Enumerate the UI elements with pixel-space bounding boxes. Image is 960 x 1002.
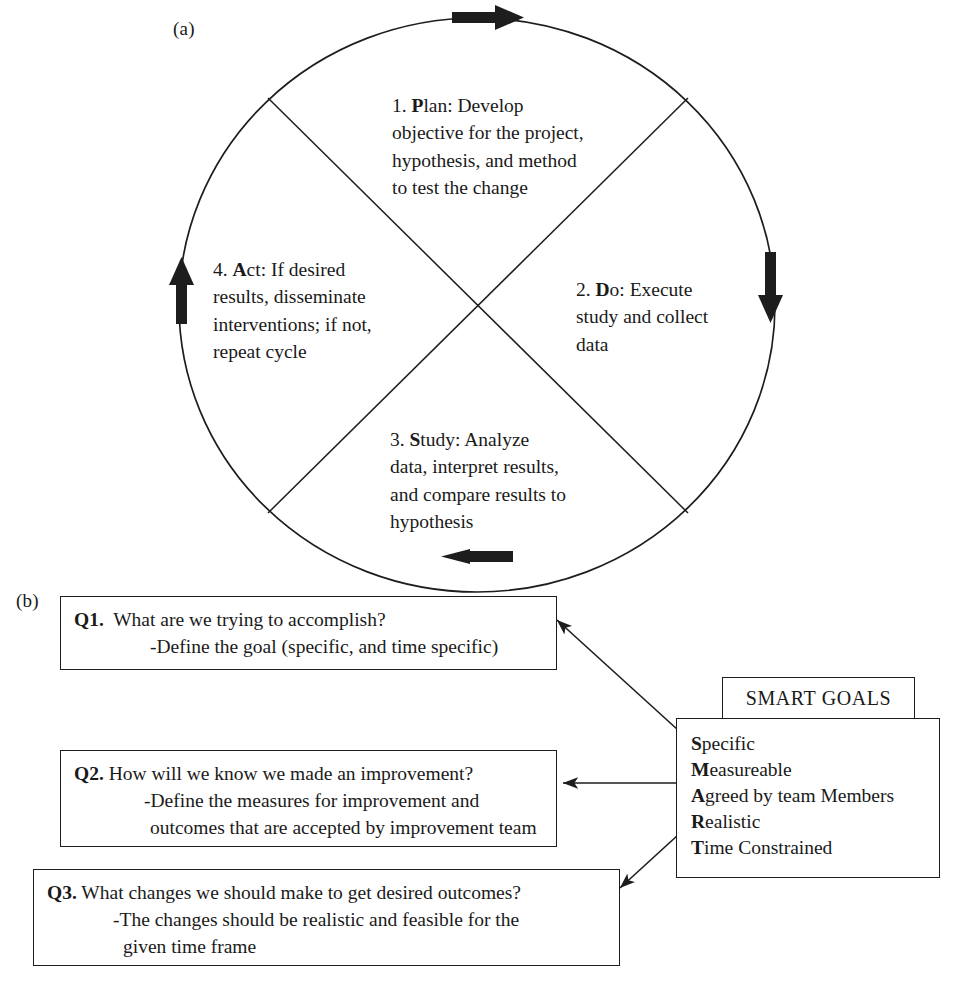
q1-text-line1: What are we trying to accomplish? bbox=[113, 609, 385, 630]
smart-item-specific: Specific bbox=[691, 731, 939, 757]
pdsa-quadrant-study: 3. Study: Analyze data, interpret result… bbox=[390, 398, 630, 536]
smart-goals-list: Specific Measureable Agreed by team Memb… bbox=[676, 718, 940, 878]
q2-text-line1: How will we know we made an improvement? bbox=[109, 763, 473, 784]
pdsa-plan-line1: 1. Plan: Develop bbox=[392, 95, 524, 116]
cycle-arrow-left bbox=[169, 257, 194, 324]
q3-line-1: Q3. What changes we should make to get d… bbox=[47, 879, 619, 906]
panel-a-label: (a) bbox=[173, 18, 195, 40]
pdsa-do-line1: 2. Do: Execute bbox=[576, 279, 692, 300]
connector-smart-to-q1 bbox=[557, 620, 678, 730]
pdsa-study-lines-rest: data, interpret results, and compare res… bbox=[390, 456, 566, 532]
pdsa-act-lines-rest: results, disseminate interventions; if n… bbox=[213, 286, 372, 362]
connector-smart-to-q3 bbox=[620, 835, 678, 888]
pdsa-plan-lines-rest: objective for the project, hypothesis, a… bbox=[392, 122, 584, 198]
pdsa-quadrant-act: 4. Act: If desired results, disseminate … bbox=[213, 228, 463, 366]
pdsa-act-line1: 4. Act: If desired bbox=[213, 259, 345, 280]
q3-line-3: given time frame bbox=[47, 933, 619, 960]
cycle-arrow-bottom bbox=[441, 549, 513, 564]
smart-item-time-constrained: Time Constrained bbox=[691, 835, 939, 861]
q2-line-1: Q2. How will we know we made an improvem… bbox=[74, 760, 556, 787]
pdsa-do-lines-rest: study and collect data bbox=[576, 306, 708, 355]
smart-item-agreed: Agreed by team Members bbox=[691, 783, 939, 809]
question-box-q1[interactable]: Q1. What are we trying to accomplish? -D… bbox=[60, 596, 557, 670]
q2-label: Q2. bbox=[74, 763, 104, 784]
question-box-q3[interactable]: Q3. What changes we should make to get d… bbox=[33, 869, 620, 966]
smart-item-realistic: Realistic bbox=[691, 809, 939, 835]
q3-text-line1: What changes we should make to get desir… bbox=[81, 882, 521, 903]
smart-item-measureable: Measureable bbox=[691, 757, 939, 783]
clipped-caption-strip bbox=[0, 985, 960, 1002]
figure-page: (a) (b) 1. Plan: Develop objective for t… bbox=[0, 0, 960, 1002]
pdsa-quadrant-plan: 1. Plan: Develop objective for the proje… bbox=[392, 64, 632, 202]
q2-line-3: outcomes that are accepted by improvemen… bbox=[74, 814, 556, 841]
q2-line-2: -Define the measures for improvement and bbox=[74, 787, 556, 814]
smart-goals-header: SMART GOALS bbox=[722, 677, 915, 720]
q1-line-2: -Define the goal (specific, and time spe… bbox=[74, 633, 556, 660]
q1-line-1: Q1. What are we trying to accomplish? bbox=[74, 606, 556, 633]
q3-label: Q3. bbox=[47, 882, 77, 903]
q1-label: Q1. bbox=[74, 609, 104, 630]
cycle-arrow-top bbox=[452, 5, 524, 30]
pdsa-study-line1: 3. Study: Analyze bbox=[390, 429, 529, 450]
panel-b-label: (b) bbox=[16, 590, 39, 612]
q3-line-2: -The changes should be realistic and fea… bbox=[47, 906, 619, 933]
pdsa-quadrant-do: 2. Do: Execute study and collect data bbox=[576, 248, 766, 358]
question-box-q2[interactable]: Q2. How will we know we made an improvem… bbox=[60, 750, 557, 847]
